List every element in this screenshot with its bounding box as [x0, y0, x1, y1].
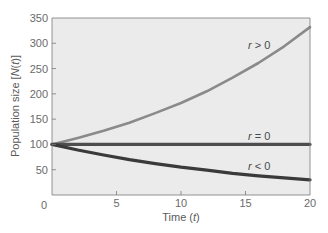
x-tick-label: 20	[304, 197, 316, 209]
y-tick-label: 250	[30, 63, 48, 75]
label-r-positive: r > 0	[248, 39, 270, 51]
x-axis-title: Time (t)	[162, 211, 200, 223]
y-tick-label: 100	[30, 138, 48, 150]
y-tick-label: 350	[30, 12, 48, 24]
x-tick-label: 5	[113, 197, 119, 209]
y-tick-label: 0	[41, 199, 47, 211]
population-growth-chart: 050100150200250300350 5101520 Population…	[0, 0, 328, 233]
y-tick-label: 300	[30, 37, 48, 49]
y-tick-label: 150	[30, 113, 48, 125]
y-axis-title: Population size [N(t)]	[9, 55, 21, 157]
y-tick-label: 50	[36, 164, 48, 176]
label-r-negative: r < 0	[248, 160, 270, 172]
x-tick-label: 10	[175, 197, 187, 209]
label-r-zero: r = 0	[248, 130, 270, 142]
y-tick-label: 200	[30, 88, 48, 100]
x-tick-label: 15	[239, 197, 251, 209]
